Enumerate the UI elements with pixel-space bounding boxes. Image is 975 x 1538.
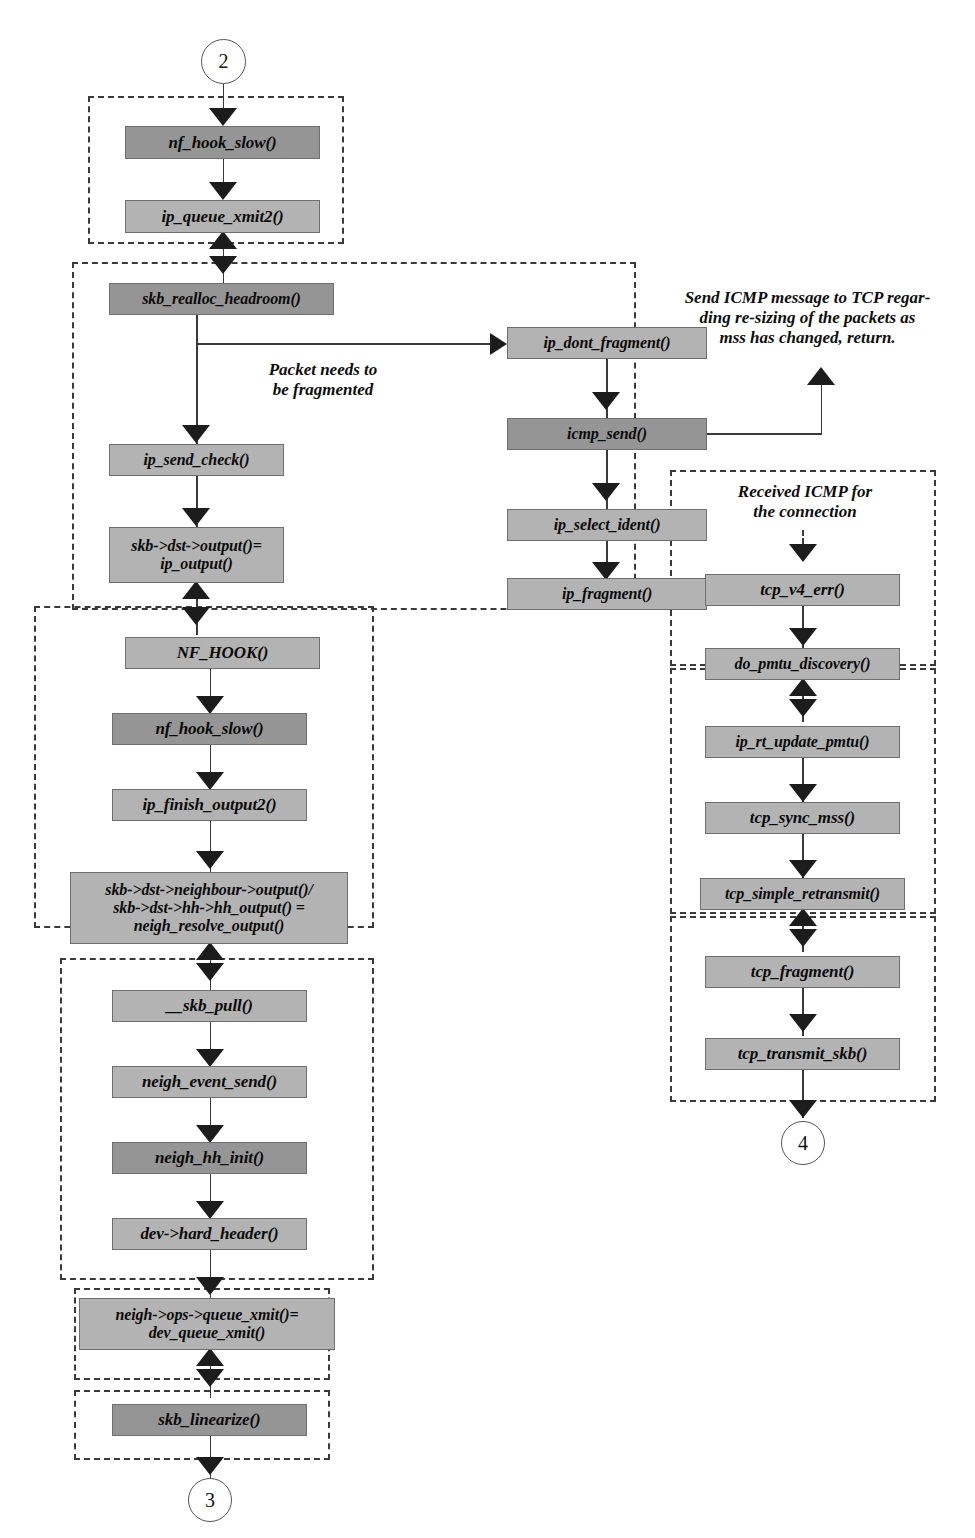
- node-label: __skb_pull(): [163, 996, 256, 1015]
- node-skb-dst-output[interactable]: skb->dst->output()= ip_output(): [109, 527, 284, 583]
- arrowhead-down: [789, 628, 817, 646]
- arrowhead-down: [196, 963, 224, 981]
- node-icmp-send[interactable]: icmp_send(): [507, 418, 707, 450]
- node-ip-select-ident[interactable]: ip_select_ident(): [507, 509, 707, 541]
- node-neigh-hh-init[interactable]: neigh_hh_init(): [112, 1142, 307, 1174]
- arrowhead-down: [209, 256, 237, 274]
- node-label: ip_select_ident(): [551, 516, 664, 534]
- arrowhead-down: [789, 1100, 817, 1118]
- arrowhead-down: [196, 1125, 224, 1143]
- node-label: skb_linearize(): [155, 1410, 263, 1429]
- arrowhead-down: [789, 699, 817, 717]
- node-ip-fragment[interactable]: ip_fragment(): [507, 578, 707, 610]
- connector-label-3: 3: [205, 1489, 215, 1512]
- arrowhead-up: [196, 942, 224, 960]
- arrowhead-down: [196, 772, 224, 790]
- arrowhead-down: [196, 1369, 224, 1387]
- arrowhead-up: [789, 908, 817, 926]
- arrowhead-down: [592, 392, 620, 410]
- connector-circle-3: 3: [188, 1478, 232, 1522]
- node-label: icmp_send(): [564, 425, 650, 443]
- edge-branch-to-ip-dont-fragment: [196, 343, 494, 345]
- arrowhead-up: [789, 678, 817, 696]
- node-label: nf_hook_slow(): [152, 719, 266, 738]
- arrowhead-down: [182, 508, 210, 526]
- arrowhead-down: [196, 1457, 224, 1475]
- node-label: nf_hook_slow(): [165, 133, 279, 152]
- arrowhead-down: [789, 1014, 817, 1032]
- node-tcp-transmit-skb[interactable]: tcp_transmit_skb(): [705, 1038, 900, 1070]
- arrowhead-down: [196, 851, 224, 869]
- node-label: neigh_hh_init(): [152, 1148, 267, 1167]
- node-label: tcp_v4_err(): [757, 580, 848, 599]
- arrowhead-down: [789, 784, 817, 802]
- node-ip-queue-xmit2[interactable]: ip_queue_xmit2(): [125, 200, 320, 233]
- arrowhead-down: [196, 1201, 224, 1219]
- connector-circle-4: 4: [781, 1121, 825, 1165]
- node-label: ip_rt_update_pmtu(): [732, 733, 872, 751]
- node-nf-hook-slow-2[interactable]: nf_hook_slow(): [112, 713, 307, 745]
- node-tcp-sync-mss[interactable]: tcp_sync_mss(): [705, 802, 900, 834]
- node-label: tcp_transmit_skb(): [735, 1044, 871, 1063]
- node-label: ip_fragment(): [559, 585, 655, 603]
- arrowhead-down: [789, 544, 817, 562]
- node-label: skb->dst->neighbour->output()/ skb->dst-…: [102, 881, 316, 935]
- node-skb-linearize[interactable]: skb_linearize(): [112, 1404, 307, 1436]
- node-dev-queue-xmit[interactable]: neigh->ops->queue_xmit()= dev_queue_xmit…: [79, 1298, 335, 1350]
- node-do-pmtu-discovery[interactable]: do_pmtu_discovery(): [705, 648, 900, 680]
- arrowhead-down: [196, 1277, 224, 1295]
- label-send-icmp-to-tcp: Send ICMP message to TCP regar- ding re-…: [645, 288, 970, 348]
- node-ip-finish-output2[interactable]: ip_finish_output2(): [112, 789, 307, 821]
- node-label: ip_send_check(): [140, 451, 252, 469]
- edge-ip-dont-fragment-to-icmp-send: [606, 359, 608, 419]
- node-label: skb->dst->output()= ip_output(): [128, 537, 264, 573]
- node-nf-hook-slow-1[interactable]: nf_hook_slow(): [125, 126, 320, 159]
- node-neigh-resolve-output[interactable]: skb->dst->neighbour->output()/ skb->dst-…: [70, 872, 348, 944]
- arrowhead-down: [196, 1049, 224, 1067]
- node-ip-send-check[interactable]: ip_send_check(): [109, 444, 284, 476]
- connector-circle-2: 2: [201, 39, 246, 84]
- connector-label-4: 4: [798, 1132, 808, 1155]
- edge-icmp-send-to-return-note: [707, 433, 822, 435]
- node-label: tcp_simple_retransmit(): [722, 885, 883, 903]
- arrowhead-down: [592, 483, 620, 501]
- node-tcp-fragment[interactable]: tcp_fragment(): [705, 956, 900, 988]
- label-received-icmp: Received ICMP for the connection: [690, 482, 920, 522]
- node-ip-rt-update-pmtu[interactable]: ip_rt_update_pmtu(): [705, 726, 900, 758]
- flowchart-canvas: 2 nf_hook_slow() ip_queue_xmit2() skb_re…: [0, 0, 975, 1538]
- arrowhead-up: [196, 1348, 224, 1366]
- node-label: dev->hard_header(): [137, 1224, 281, 1243]
- node-label: neigh->ops->queue_xmit()= dev_queue_xmit…: [112, 1306, 301, 1342]
- node-label: NF_HOOK(): [174, 643, 272, 662]
- node-dev-hard-header[interactable]: dev->hard_header(): [112, 1218, 307, 1250]
- node-neigh-event-send[interactable]: neigh_event_send(): [112, 1066, 307, 1098]
- node-nf-hook[interactable]: NF_HOOK(): [125, 637, 320, 669]
- label-packet-needs-fragmented: Packet needs to be fragmented: [218, 360, 428, 400]
- arrowhead-down: [209, 108, 237, 126]
- connector-label-2: 2: [219, 50, 229, 73]
- arrowhead-down: [182, 425, 210, 443]
- node-tcp-v4-err[interactable]: tcp_v4_err(): [705, 574, 900, 606]
- node-label: do_pmtu_discovery(): [732, 655, 874, 673]
- arrowhead-up: [209, 231, 237, 249]
- node-label: ip_finish_output2(): [139, 795, 279, 814]
- arrowhead-down: [182, 607, 210, 625]
- node-tcp-simple-retransmit[interactable]: tcp_simple_retransmit(): [700, 878, 905, 910]
- node-label: tcp_sync_mss(): [747, 808, 858, 827]
- node-label: neigh_event_send(): [139, 1072, 280, 1091]
- arrowhead-up: [807, 367, 835, 385]
- arrowhead-down: [209, 182, 237, 200]
- node-skb-pull[interactable]: __skb_pull(): [112, 990, 307, 1022]
- node-label: ip_queue_xmit2(): [158, 207, 286, 226]
- arrowhead-down: [196, 696, 224, 714]
- edge-return-note-riser: [821, 385, 823, 434]
- node-label: skb_realloc_headroom(): [139, 290, 304, 308]
- edge-icmp-send-to-ip-select-ident: [606, 450, 608, 510]
- arrowhead-right: [490, 333, 507, 355]
- node-skb-realloc-headroom[interactable]: skb_realloc_headroom(): [109, 283, 334, 315]
- node-label: tcp_fragment(): [748, 962, 857, 981]
- arrowhead-down: [789, 860, 817, 878]
- arrowhead-down: [789, 929, 817, 947]
- arrowhead-up: [182, 581, 210, 599]
